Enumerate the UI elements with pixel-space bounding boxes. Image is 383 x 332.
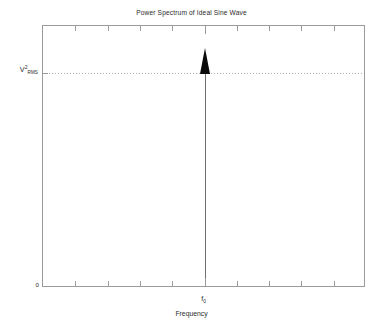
x-tick-label-f0-subscript: 0 — [203, 299, 206, 304]
x-axis-tick-top — [269, 26, 270, 31]
power-spectrum-figure: Power Spectrum of Ideal Sine Wave 0 V2RM… — [0, 0, 383, 332]
x-axis-title: Frequency — [0, 310, 383, 317]
x-axis-tick-f0-top — [205, 26, 206, 34]
y-axis-tick-rms — [43, 73, 48, 74]
y-tick-label-zero: 0 — [36, 281, 39, 288]
x-axis-tick-bottom — [269, 281, 270, 286]
x-axis-tick-top — [140, 26, 141, 31]
x-axis-tick-top — [237, 26, 238, 31]
x-axis-tick-top — [172, 26, 173, 31]
x-tick-label-f0: f0 — [184, 294, 224, 303]
plot-inner — [43, 26, 364, 286]
x-axis-tick-top — [75, 26, 76, 31]
y-tick-label-rms-subscript: RMS — [27, 71, 38, 76]
x-axis-tick-top — [334, 26, 335, 31]
impulse-arrowhead — [200, 48, 210, 74]
y-tick-label-rms-superscript: 2 — [25, 64, 28, 70]
x-axis-tick-top — [108, 26, 109, 31]
x-axis-tick-f0-bottom — [205, 278, 206, 286]
x-axis-tick-top — [301, 26, 302, 31]
x-axis-tick-bottom — [172, 281, 173, 286]
plot-area — [42, 25, 365, 287]
x-axis-tick-bottom — [301, 281, 302, 286]
x-axis-tick-bottom — [237, 281, 238, 286]
x-axis-tick-bottom — [140, 281, 141, 286]
impulse-stem — [205, 73, 206, 286]
y-tick-label-rms: V2RMS — [20, 65, 38, 74]
x-axis-tick-bottom — [75, 281, 76, 286]
x-axis-tick-bottom — [334, 281, 335, 286]
chart-title: Power Spectrum of Ideal Sine Wave — [0, 9, 383, 16]
x-axis-tick-bottom — [108, 281, 109, 286]
